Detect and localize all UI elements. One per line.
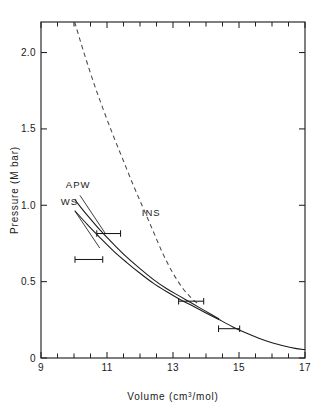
y-axis-tick-labels: 00.51.01.52.0	[21, 47, 36, 363]
x-tick-label-17: 17	[299, 362, 311, 373]
y-axis-ticks-right	[299, 53, 305, 358]
y-tick-label-0: 0	[30, 353, 36, 364]
y-tick-label-0.5: 0.5	[21, 276, 36, 287]
curve-ws	[75, 211, 220, 320]
x-axis-title: Volume (cm3/mol)	[127, 391, 218, 403]
curve-experimental-curve	[219, 320, 305, 350]
y-tick-label-2.0: 2.0	[21, 47, 36, 58]
x-axis-ticks-bottom	[41, 352, 305, 358]
data-curves	[75, 22, 305, 350]
curve-label-ws: WS	[61, 196, 79, 207]
label-leader-lines	[76, 195, 106, 248]
error-bar-1	[97, 230, 121, 236]
y-tick-label-1.0: 1.0	[21, 200, 36, 211]
x-axis-ticks-top	[41, 22, 305, 28]
x-tick-label-11: 11	[101, 362, 112, 373]
error-bar-2	[75, 256, 103, 262]
y-axis-ticks-left	[41, 53, 47, 358]
curve-ins	[75, 22, 198, 304]
y-tick-label-1.5: 1.5	[21, 123, 36, 134]
curve-label-ins: INS	[142, 207, 161, 218]
error-bar-4	[219, 325, 240, 331]
y-axis-title: Pressure (M bar)	[9, 146, 20, 234]
ws-leader	[76, 212, 100, 248]
x-tick-label-9: 9	[38, 362, 44, 373]
x-axis-tick-labels: 911131517	[38, 362, 311, 373]
x-tick-label-15: 15	[233, 362, 245, 373]
apw-leader	[80, 195, 105, 233]
curve-label-apw: APW	[66, 179, 91, 190]
x-tick-label-13: 13	[167, 362, 179, 373]
pressure-volume-chart: 911131517 00.51.01.52.0 INSAPWWS Volume …	[0, 0, 327, 419]
